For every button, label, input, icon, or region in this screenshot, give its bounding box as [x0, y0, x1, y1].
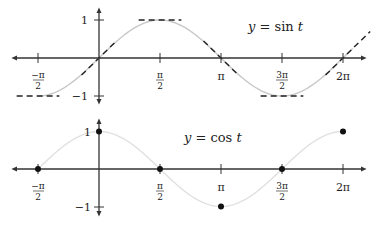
svg-text:π: π: [157, 70, 163, 80]
data-point: [279, 166, 285, 172]
svg-text:2: 2: [35, 81, 41, 91]
sin-tick-pi-half: π 2: [156, 70, 164, 91]
data-point: [340, 129, 346, 135]
sin-tick-neg-pi-half: −π 2: [31, 70, 45, 91]
cos-tick-neg-pi-half: −π 2: [31, 181, 45, 202]
svg-text:2: 2: [157, 81, 163, 91]
sin-tick-3pi-half: 3π 2: [276, 70, 288, 91]
svg-text:2: 2: [279, 192, 285, 202]
svg-text:2: 2: [279, 81, 285, 91]
svg-text:3π: 3π: [276, 70, 288, 80]
cos-tick-3pi-half: 3π 2: [276, 181, 288, 202]
cos-y-label-neg1: −1: [75, 201, 91, 214]
sin-title: y = sin t: [247, 19, 304, 34]
figure: 1 −1 −π 2 π 2 π 3π 2 2π y = sin t: [0, 0, 380, 228]
data-point: [218, 204, 224, 210]
data-point: [96, 129, 102, 135]
cos-title: y = cos t: [183, 130, 242, 145]
sin-tick-pi: π: [217, 70, 224, 83]
cos-y-label-1: 1: [84, 126, 91, 139]
cos-plot: 1 −1 −π 2 π 2 π 3π 2 2π y = cos t: [14, 121, 364, 214]
data-point: [157, 166, 163, 172]
svg-text:−π: −π: [31, 181, 45, 191]
svg-text:2: 2: [35, 192, 41, 202]
cos-tick-2pi: 2π: [336, 181, 350, 194]
svg-text:π: π: [157, 181, 163, 191]
svg-text:−π: −π: [31, 70, 45, 80]
data-point: [35, 166, 41, 172]
sin-y-label-neg1: −1: [72, 90, 88, 103]
sin-plot: 1 −1 −π 2 π 2 π 3π 2 2π y = sin t: [14, 10, 370, 103]
sin-y-label-1: 1: [81, 14, 88, 27]
cos-tick-pi: π: [217, 181, 224, 194]
cos-tick-pi-half: π 2: [156, 181, 164, 202]
svg-text:3π: 3π: [276, 181, 288, 191]
svg-text:2: 2: [157, 192, 163, 202]
sin-tick-2pi: 2π: [336, 70, 350, 83]
